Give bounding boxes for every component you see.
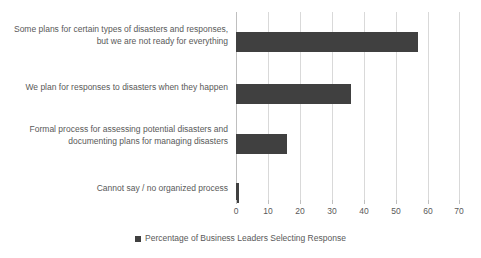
bar-2[interactable] [236, 134, 287, 154]
x-tick-label-0: 0 [234, 206, 239, 217]
bars [236, 12, 460, 200]
x-tick-label-5: 50 [391, 206, 400, 217]
x-tick-label-2: 20 [295, 206, 304, 217]
plot-area [236, 12, 460, 200]
tick-mark-5 [396, 200, 397, 204]
bar-1[interactable] [236, 84, 351, 104]
bar-slot-2 [236, 120, 287, 167]
tick-mark-0 [236, 200, 237, 204]
category-label-1: We plan for responses to disasters when … [0, 81, 228, 93]
legend-label: Percentage of Business Leaders Selecting… [145, 233, 346, 244]
x-tick-label-4: 40 [359, 206, 368, 217]
chart-legend: Percentage of Business Leaders Selecting… [0, 233, 481, 244]
category-label-0: Some plans for certain types of disaster… [0, 23, 228, 47]
legend-square-marker-icon [135, 236, 141, 242]
x-tick-label-1: 10 [263, 206, 272, 217]
bar-chart: Some plans for certain types of disaster… [0, 0, 481, 258]
x-tick-label-7: 70 [454, 206, 463, 217]
x-tick-label-6: 60 [423, 206, 432, 217]
bar-slot-0 [236, 18, 418, 65]
tick-mark-7 [459, 200, 460, 204]
tick-mark-6 [428, 200, 429, 204]
x-tick-label-3: 30 [327, 206, 336, 217]
x-axis: 0 10 20 30 40 50 60 70 [236, 200, 460, 220]
category-label-3: Cannot say / no organized process [0, 182, 228, 194]
tick-mark-2 [300, 200, 301, 204]
category-label-2: Formal process for assessing potential d… [0, 123, 228, 147]
bar-0[interactable] [236, 32, 418, 52]
tick-mark-1 [268, 200, 269, 204]
bar-slot-1 [236, 70, 351, 117]
tick-mark-4 [364, 200, 365, 204]
tick-mark-3 [332, 200, 333, 204]
category-axis-labels: Some plans for certain types of disaster… [0, 12, 232, 200]
